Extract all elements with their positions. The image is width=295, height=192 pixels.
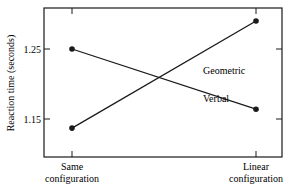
- data-point: [69, 125, 75, 131]
- x-category-label: configuration: [229, 173, 283, 184]
- x-category-label: Linear: [243, 161, 270, 172]
- series-label-geometric: Geometric: [203, 65, 246, 76]
- plot-frame: [44, 8, 282, 157]
- line-chart: 1.151.25SameconfigurationLinearconfigura…: [0, 0, 295, 192]
- y-tick-label: 1.25: [24, 44, 42, 55]
- data-point: [253, 106, 259, 112]
- series-label-verbal: Verbal: [203, 93, 229, 104]
- x-category-label: Same: [61, 161, 84, 172]
- y-axis-label: Reaction time (seconds): [5, 35, 17, 132]
- axis-ticks: [44, 8, 282, 157]
- data-point: [69, 46, 75, 52]
- y-tick-label: 1.15: [24, 114, 42, 125]
- axis-labels: 1.151.25SameconfigurationLinearconfigura…: [24, 44, 283, 185]
- x-category-label: configuration: [45, 173, 99, 184]
- data-point: [253, 18, 259, 24]
